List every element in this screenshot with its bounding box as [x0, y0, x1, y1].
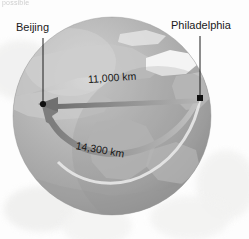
figure-canvas: possible	[0, 0, 249, 239]
city-label-beijing: Beijing	[16, 21, 49, 34]
city-label-philadelphia: Philadelphia	[171, 19, 231, 32]
city-dot-philadelphia[interactable]	[197, 95, 203, 101]
globe-scene	[0, 0, 249, 239]
globe-specular-highlight	[24, 28, 116, 96]
city-dot-beijing[interactable]	[40, 101, 46, 107]
